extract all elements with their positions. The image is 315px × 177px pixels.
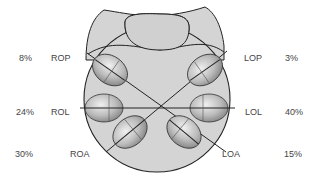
head-rol [85, 94, 123, 122]
head-lol [190, 94, 228, 122]
rol-label: ROL [51, 107, 70, 117]
roa-percent: 30% [15, 149, 33, 159]
lol-label: LOL [245, 107, 262, 117]
fetal-position-diagram: 8% ROP 24% ROL 30% ROA LOP 3% LOL 40% LO… [0, 0, 315, 177]
rop-percent: 8% [19, 53, 32, 63]
lol-percent: 40% [285, 107, 303, 117]
rop-label: ROP [51, 53, 71, 63]
loa-label: LOA [222, 149, 240, 159]
lop-label: LOP [244, 53, 262, 63]
pelvis-illustration [0, 0, 315, 177]
lop-percent: 3% [285, 53, 298, 63]
roa-label: ROA [70, 149, 90, 159]
loa-percent: 15% [284, 149, 302, 159]
rol-percent: 24% [16, 107, 34, 117]
